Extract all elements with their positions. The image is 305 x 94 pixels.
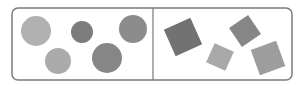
circle-shape-5 xyxy=(92,43,122,73)
circle-shape-3 xyxy=(119,15,147,43)
circle-shape-4 xyxy=(45,48,71,74)
circle-shape-2 xyxy=(71,21,93,43)
diagram-svg xyxy=(0,0,305,94)
circle-shape-1 xyxy=(21,16,51,46)
shape-comparison-diagram xyxy=(0,0,305,94)
